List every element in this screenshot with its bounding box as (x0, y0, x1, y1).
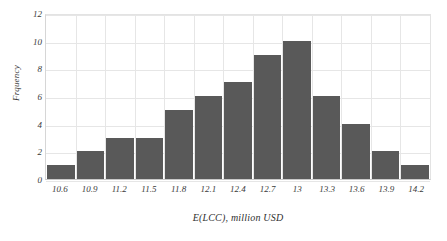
bar-slot (341, 15, 371, 179)
x-axis-tick-label: 13.9 (372, 184, 402, 200)
y-axis-tick-label: 0 (24, 175, 42, 185)
y-axis-tick-label: 4 (24, 120, 42, 130)
bar-slot (194, 15, 224, 179)
horizontal-gridline (46, 181, 430, 182)
x-axis-tick-label: 12.4 (223, 184, 253, 200)
bar-slot (105, 15, 135, 179)
bar-series (46, 15, 430, 179)
bar-slot (76, 15, 106, 179)
histogram-bar (224, 82, 252, 179)
x-axis-title: E(LCC), million USD (45, 212, 431, 223)
histogram-bar (283, 41, 311, 179)
y-axis-tick-label: 10 (24, 37, 42, 47)
x-axis-tick-label: 13.3 (312, 184, 342, 200)
x-axis-tick-label: 11.5 (134, 184, 164, 200)
x-axis-tick-label: 12.1 (193, 184, 223, 200)
histogram-figure: Frquency 024681012 10.610.911.211.511.81… (0, 0, 447, 241)
bar-slot (135, 15, 165, 179)
plot-area (45, 14, 431, 180)
y-axis-tick-label: 8 (24, 64, 42, 74)
histogram-bar (195, 96, 223, 179)
x-axis-tick-label: 12.7 (253, 184, 283, 200)
bar-slot (371, 15, 401, 179)
x-axis-tick-label: 13 (283, 184, 313, 200)
y-axis-tick-labels: 024681012 (24, 14, 42, 180)
histogram-bar (313, 96, 341, 179)
x-axis-tick-label: 10.6 (45, 184, 75, 200)
bar-slot (164, 15, 194, 179)
y-axis-tick-label: 12 (24, 9, 42, 19)
x-axis-tick-label: 11.2 (104, 184, 134, 200)
x-axis-tick-label: 11.8 (164, 184, 194, 200)
y-axis-tick-label: 6 (24, 92, 42, 102)
bar-slot (253, 15, 283, 179)
histogram-bar (165, 110, 193, 179)
histogram-bar (106, 138, 134, 180)
histogram-bar (372, 151, 400, 179)
bar-slot (400, 15, 430, 179)
x-axis-tick-label: 14.2 (401, 184, 431, 200)
histogram-bar (401, 165, 429, 179)
x-axis-tick-label: 13.6 (342, 184, 372, 200)
bar-slot (223, 15, 253, 179)
histogram-bar (77, 151, 105, 179)
bar-slot (282, 15, 312, 179)
histogram-bar (254, 55, 282, 180)
bar-slot (312, 15, 342, 179)
histogram-bar (342, 124, 370, 179)
histogram-bar (136, 138, 164, 180)
x-axis-tick-label: 10.9 (75, 184, 105, 200)
histogram-bar (47, 165, 75, 179)
x-axis-tick-labels: 10.610.911.211.511.812.112.412.71313.313… (45, 184, 431, 200)
y-axis-title: Frquency (11, 43, 21, 123)
bar-slot (46, 15, 76, 179)
y-axis-tick-label: 2 (24, 147, 42, 157)
